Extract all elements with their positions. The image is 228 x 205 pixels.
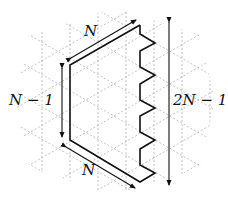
- region-outline: [70, 25, 155, 182]
- bottom-edge-arrow: [66, 147, 135, 188]
- right-height-label: 2N − 1: [173, 93, 227, 108]
- top-edge-label: N: [84, 24, 97, 39]
- dimension-arrows: [62, 20, 169, 188]
- bottom-edge-label: N: [82, 163, 95, 178]
- left-edge-label: N − 1: [9, 93, 54, 108]
- region-boundary: [70, 25, 155, 182]
